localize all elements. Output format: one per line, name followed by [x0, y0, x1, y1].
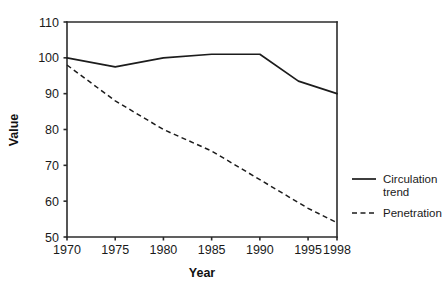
data-series [67, 54, 337, 222]
x-tick-label: 1970 [53, 243, 81, 257]
series-line-penetration [67, 65, 337, 223]
x-tick-label: 1995 [294, 243, 322, 257]
y-tick-label: 90 [45, 87, 59, 101]
legend-label: Circulation [383, 173, 437, 185]
line-chart: 5060708090100110 19701975198019851990199… [0, 0, 444, 301]
x-tick-label: 1980 [150, 243, 178, 257]
chart-container: 5060708090100110 19701975198019851990199… [0, 0, 444, 301]
series-line-circulation-trend [67, 54, 337, 93]
x-tick-label: 1975 [101, 243, 129, 257]
legend-label: Penetration [383, 207, 442, 219]
x-axis-title: Year [189, 266, 216, 280]
y-tick-label: 60 [45, 195, 59, 209]
y-axis-ticks: 5060708090100110 [38, 16, 67, 245]
y-tick-label: 70 [45, 159, 59, 173]
x-tick-label: 1985 [198, 243, 226, 257]
chart-legend: CirculationtrendPenetration [352, 173, 442, 219]
y-tick-label: 110 [39, 16, 59, 30]
x-axis-ticks: 1970197519801985199019951998 [53, 237, 351, 257]
legend-label-line2: trend [383, 186, 409, 198]
x-tick-label: 1990 [246, 243, 274, 257]
y-axis-title: Value [7, 114, 21, 147]
y-tick-label: 100 [38, 51, 59, 65]
x-tick-label: 1998 [323, 243, 351, 257]
y-tick-label: 80 [45, 123, 59, 137]
